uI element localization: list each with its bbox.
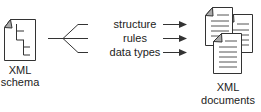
document-icon bbox=[214, 34, 242, 74]
documents-label-line1: XML bbox=[198, 81, 258, 93]
relation-label-structure: structure bbox=[100, 18, 170, 30]
documents-label-line2: documents bbox=[198, 94, 258, 106]
relation-label-data-types: data types bbox=[100, 46, 170, 58]
relation-label-rules: rules bbox=[100, 32, 170, 44]
fork-connector bbox=[48, 25, 88, 53]
schema-label-line1: XML bbox=[0, 64, 40, 76]
document-stack-icon bbox=[206, 8, 253, 74]
schema-label-line2: schema bbox=[0, 76, 40, 88]
schema-document-icon bbox=[5, 20, 36, 61]
